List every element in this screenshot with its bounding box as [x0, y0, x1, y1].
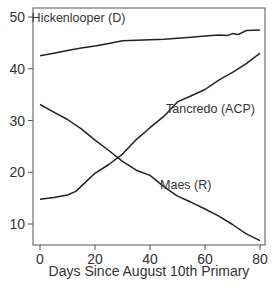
series-label: Tancredo (ACP): [166, 102, 255, 116]
series-lines: [40, 30, 260, 241]
y-tick-label: 20: [9, 164, 25, 180]
hickenlooper-line: [40, 30, 260, 56]
y-tick-label: 10: [9, 216, 25, 232]
tancredo-line: [40, 53, 260, 199]
x-tick-label: 0: [36, 251, 44, 267]
plot-frame: [33, 8, 265, 245]
y-tick-label: 50: [9, 9, 25, 25]
y-tick-label: 30: [9, 113, 25, 129]
series-labels: Hickenlooper (D)Tancredo (ACP)Maes (R): [32, 11, 255, 192]
maes-line: [40, 105, 260, 241]
x-axis-title: Days Since August 10th Primary: [49, 263, 250, 279]
series-label: Maes (R): [160, 178, 211, 192]
y-tick-label: 40: [9, 61, 25, 77]
line-chart: 1020304050 020406080 Hickenlooper (D)Tan…: [0, 0, 278, 291]
series-label: Hickenlooper (D): [32, 11, 126, 25]
y-axis: 1020304050: [9, 9, 33, 232]
x-tick-label: 80: [252, 251, 268, 267]
